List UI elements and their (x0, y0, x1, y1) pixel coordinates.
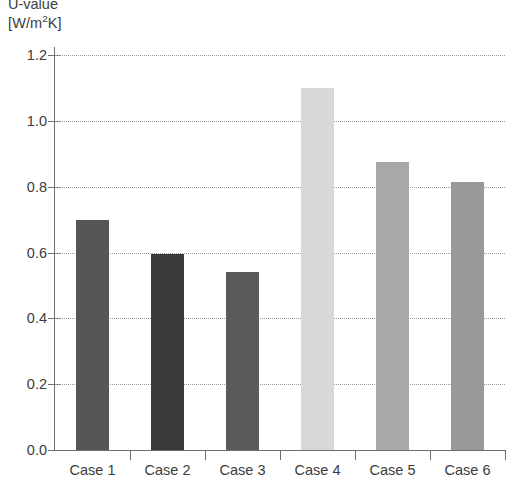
y-axis-tick-label: 1.2 (13, 47, 47, 63)
unit-suffix: K] (48, 15, 62, 31)
plot-area (55, 55, 505, 450)
bar-chart-figure: U-value [W/m2K] 0.00.20.40.60.81.01.2 Ca… (0, 0, 519, 486)
y-axis-tick-label: 0.4 (13, 310, 47, 326)
x-axis-tick-label: Case 2 (130, 462, 206, 478)
gridline (55, 384, 505, 385)
x-axis-tick-mark (130, 451, 131, 460)
bar-case-3 (226, 272, 259, 450)
y-axis-ticks: 0.00.20.40.60.81.01.2 (0, 0, 47, 486)
y-axis-tick-label: 1.0 (13, 113, 47, 129)
x-axis-tick-label: Case 6 (430, 462, 506, 478)
x-axis-tick-mark (430, 451, 431, 460)
bar-case-4 (301, 88, 334, 450)
gridline (55, 318, 505, 319)
bar-case-5 (376, 162, 409, 450)
bar-case-1 (76, 220, 109, 450)
gridline (55, 187, 505, 188)
y-axis-tick-label: 0.0 (13, 442, 47, 458)
x-axis-tick-label: Case 1 (55, 462, 131, 478)
x-axis-tick-mark (355, 451, 356, 460)
gridline (55, 253, 505, 254)
gridline (55, 55, 505, 56)
y-axis-tick-label: 0.2 (13, 376, 47, 392)
bar-case-2 (151, 254, 184, 450)
x-axis-tick-mark (205, 451, 206, 460)
x-axis-right-end-tick (505, 450, 506, 460)
y-axis-tick-label: 0.8 (13, 179, 47, 195)
y-axis-tick-label: 0.6 (13, 245, 47, 261)
x-axis-tick-label: Case 4 (280, 462, 356, 478)
x-axis-tick-mark (280, 451, 281, 460)
gridline (55, 121, 505, 122)
x-axis-tick-label: Case 5 (355, 462, 431, 478)
bar-case-6 (451, 182, 484, 450)
x-axis-tick-label: Case 3 (205, 462, 281, 478)
